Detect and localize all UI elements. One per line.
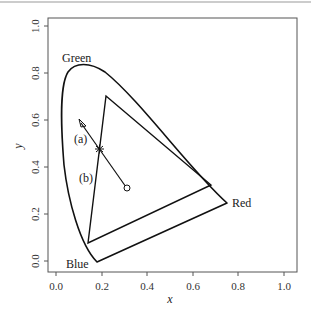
y-tick-label: 0.2 xyxy=(29,207,41,221)
chromaticity-chart: 0.0 0.2 0.4 0.6 0.8 1.0 x 0.0 0.2 0.4 0.… xyxy=(0,0,311,317)
y-tick-label: 1.0 xyxy=(29,19,41,33)
intersection-star-marker xyxy=(95,145,104,154)
y-axis-label: y xyxy=(11,143,25,150)
label-a: (a) xyxy=(74,132,87,146)
y-tick-label: 0.8 xyxy=(29,66,41,80)
x-axis-label: x xyxy=(166,292,173,306)
x-axis-ticks xyxy=(56,272,284,276)
y-tick-label: 0.4 xyxy=(29,160,41,174)
y-axis-ticks xyxy=(44,26,48,261)
y-tick-label: 0.6 xyxy=(29,113,41,127)
x-tick-label: 0.8 xyxy=(231,280,245,292)
x-axis-tick-labels: 0.0 0.2 0.4 0.6 0.8 1.0 xyxy=(49,280,291,292)
x-tick-label: 0.6 xyxy=(186,280,200,292)
y-tick-label: 0.0 xyxy=(29,254,41,268)
white-point-marker xyxy=(124,185,130,191)
x-tick-label: 0.2 xyxy=(95,280,109,292)
x-tick-label: 0.0 xyxy=(49,280,63,292)
green-label: Green xyxy=(62,51,91,65)
red-label: Red xyxy=(232,196,251,210)
label-b: (b) xyxy=(79,171,93,185)
y-axis-tick-labels: 0.0 0.2 0.4 0.6 0.8 1.0 xyxy=(29,19,41,268)
blue-label: Blue xyxy=(66,257,89,271)
x-tick-label: 0.4 xyxy=(140,280,154,292)
spectral-locus xyxy=(62,65,228,263)
x-tick-label: 1.0 xyxy=(277,280,291,292)
